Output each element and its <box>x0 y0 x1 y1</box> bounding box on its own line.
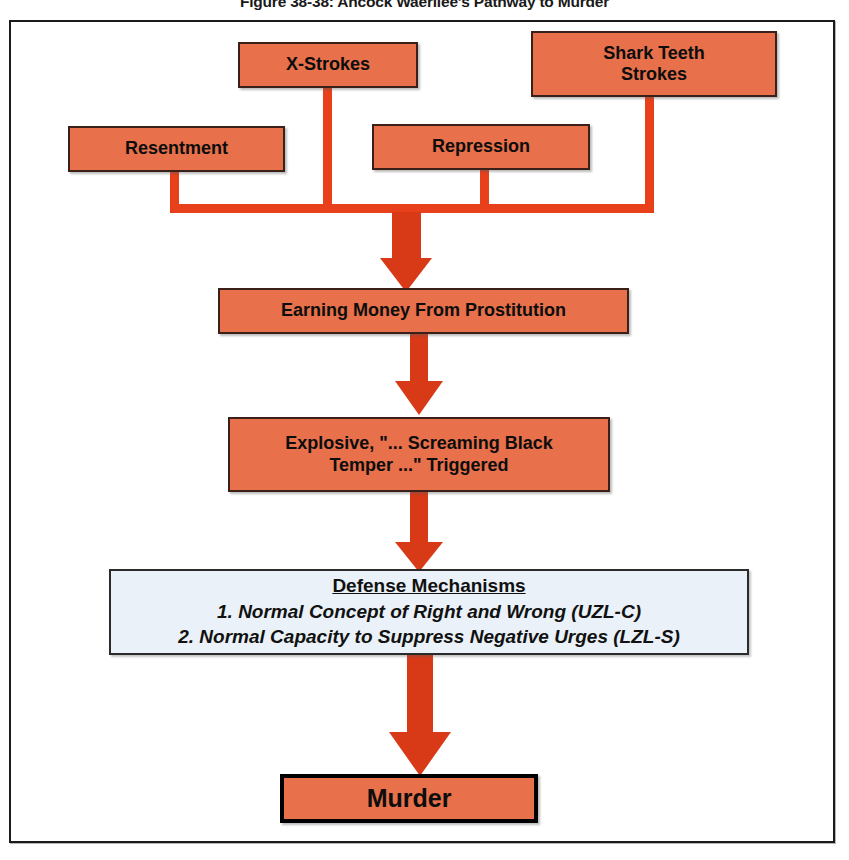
node-defense-mechanisms[interactable]: Defense Mechanisms 1. Normal Concept of … <box>109 569 749 655</box>
defense-item-1: 1. Normal Concept of Right and Wrong (UZ… <box>217 599 641 624</box>
node-explosive-temper[interactable]: Explosive, "... Screaming Black Temper .… <box>228 417 610 492</box>
node-repression-label: Repression <box>432 136 530 157</box>
arrow-head-earning-to-explosive <box>395 381 443 415</box>
defense-item-2: 2. Normal Capacity to Suppress Negative … <box>178 624 680 649</box>
node-murder-label: Murder <box>367 784 452 814</box>
arrow-shaft-bus-to-earning <box>392 212 421 258</box>
node-earning-money[interactable]: Earning Money From Prostitution <box>218 288 629 334</box>
arrow-head-bus-to-earning <box>380 258 432 292</box>
arrow-shaft-defense-to-murder <box>407 654 433 734</box>
node-earning-money-label: Earning Money From Prostitution <box>281 300 566 321</box>
connector-x-strokes-drop <box>323 86 332 212</box>
node-repression[interactable]: Repression <box>372 124 590 170</box>
arrow-head-defense-to-murder <box>389 732 451 776</box>
node-x-strokes[interactable]: X-Strokes <box>238 42 418 88</box>
node-shark-teeth-line1: Shark Teeth <box>603 43 705 64</box>
node-resentment-label: Resentment <box>125 138 228 159</box>
connector-shark-teeth-drop <box>645 95 654 212</box>
figure-canvas: Figure 38-38: Ahcock Waerilee's Pathway … <box>0 0 849 860</box>
arrow-shaft-explosive-to-defense <box>410 491 428 544</box>
figure-frame: X-Strokes Shark Teeth Strokes Resentment… <box>9 20 835 843</box>
arrow-shaft-earning-to-explosive <box>410 333 428 383</box>
node-explosive-line2: Temper ..." Triggered <box>329 455 508 476</box>
node-shark-teeth-strokes[interactable]: Shark Teeth Strokes <box>531 31 777 97</box>
node-murder[interactable]: Murder <box>280 774 538 823</box>
arrow-head-explosive-to-defense <box>395 542 443 572</box>
node-x-strokes-label: X-Strokes <box>286 54 370 75</box>
node-explosive-line1: Explosive, "... Screaming Black <box>285 433 553 454</box>
defense-heading: Defense Mechanisms <box>332 575 525 597</box>
figure-title: Figure 38-38: Ahcock Waerilee's Pathway … <box>0 0 849 10</box>
node-resentment[interactable]: Resentment <box>68 126 285 172</box>
node-shark-teeth-line2: Strokes <box>621 64 687 85</box>
